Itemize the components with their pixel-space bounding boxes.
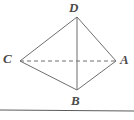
ground-line	[0, 110, 134, 111]
edge-D-A	[77, 17, 116, 61]
geometry-figure: D C A B	[0, 0, 134, 120]
edge-A-B	[77, 61, 116, 90]
vertex-label-d: D	[69, 1, 78, 14]
figure-canvas	[0, 0, 134, 120]
vertex-label-b: B	[71, 94, 80, 107]
vertex-label-a: A	[120, 53, 129, 66]
edge-C-B	[20, 61, 77, 90]
vertex-label-c: C	[3, 52, 12, 65]
edge-D-C	[20, 17, 77, 61]
